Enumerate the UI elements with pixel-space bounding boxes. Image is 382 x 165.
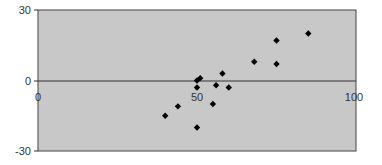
- x-tick-label-50: 50: [191, 91, 203, 103]
- x-tick-label-0: 0: [35, 91, 41, 103]
- y-tick-label-30: 30: [19, 4, 31, 16]
- y-tick-label-0: 0: [25, 75, 31, 87]
- x-tick-label-100: 100: [345, 91, 363, 103]
- scatter-chart: 30 0 -30 0 50 100: [0, 0, 382, 165]
- y-tick-label-neg30: -30: [15, 145, 31, 157]
